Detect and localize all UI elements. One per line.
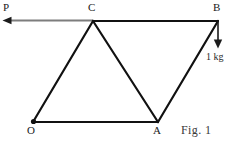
force-arrow-head	[3, 17, 12, 24]
vertex-label-A: A	[153, 125, 161, 136]
vertex-label-O: O	[27, 125, 35, 136]
figure-caption: Fig. 1	[181, 124, 211, 136]
figure-diagram	[0, 0, 231, 142]
force-arrow-P	[3, 17, 94, 24]
diagonal-C-A	[93, 21, 158, 122]
edge-A-B	[158, 21, 218, 122]
vertex-label-P: P	[3, 2, 9, 13]
edge-C-O	[33, 21, 93, 122]
vertex-label-C: C	[88, 2, 96, 13]
frame-lines	[33, 21, 218, 122]
vertex-label-B: B	[213, 2, 221, 13]
load-arrow-head	[214, 40, 222, 49]
load-weight-label: 1 kg	[206, 52, 224, 62]
figure-container: P C B O A 1 kg Fig. 1	[0, 0, 231, 142]
